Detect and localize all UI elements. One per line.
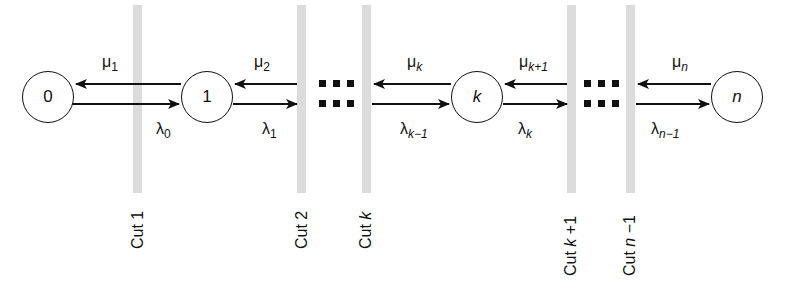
rate-mu-1: μ1 — [102, 54, 118, 73]
state-label: 0 — [43, 87, 52, 107]
state-label: 1 — [202, 87, 211, 107]
state-label: n — [732, 87, 741, 107]
rate-lambda-n-minus-1: λn−1 — [651, 121, 679, 140]
rate-lambda-k-minus-1: λk−1 — [400, 121, 428, 140]
rate-mu-n: μn — [672, 54, 688, 73]
state-node-n: n — [711, 71, 763, 123]
transition-arrows — [0, 0, 787, 292]
cut-label-1: Cut 1 — [130, 211, 146, 249]
state-label: k — [473, 87, 482, 107]
rate-lambda-0: λ0 — [156, 121, 171, 140]
rate-mu-k: μk — [407, 54, 422, 73]
cut-label-n-minus-1: Cut n −1 — [622, 215, 638, 276]
rate-lambda-1: λ1 — [262, 121, 277, 140]
cut-label-2: Cut 2 — [294, 211, 310, 249]
cut-label-k: Cut k — [358, 212, 374, 249]
rate-mu-k-plus-1: μk+1 — [519, 54, 548, 73]
state-node-0: 0 — [22, 71, 74, 123]
rate-mu-2: μ2 — [254, 54, 270, 73]
rate-lambda-k: λk — [518, 121, 532, 140]
state-node-k: k — [451, 71, 503, 123]
state-node-1: 1 — [181, 71, 233, 123]
cut-label-k-plus-1: Cut k +1 — [563, 216, 579, 276]
